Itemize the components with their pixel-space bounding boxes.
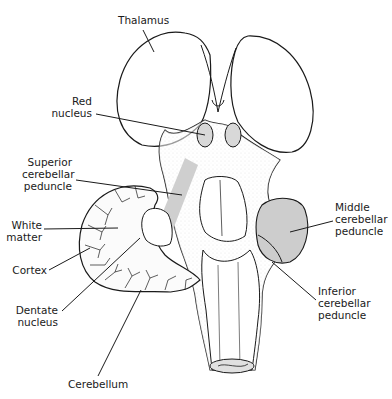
anatomy-illustration xyxy=(0,0,392,399)
label-dentate-nucleus: Dentate nucleus xyxy=(10,304,58,328)
dentate-nucleus xyxy=(142,208,172,246)
middle-cerebellar-peduncle xyxy=(256,198,308,263)
label-superior-cerebellar-peduncle: Superior cerebellar peduncle xyxy=(22,156,72,192)
label-white-matter: White matter xyxy=(2,219,42,243)
label-middle-cerebellar-peduncle: Middle cerebellar peduncle xyxy=(335,201,388,237)
medulla xyxy=(202,250,260,370)
label-red-nucleus: Red nucleus xyxy=(50,95,92,119)
label-cerebellum: Cerebellum xyxy=(68,378,128,390)
label-inferior-cerebellar-peduncle: Inferior cerebellar peduncle xyxy=(318,285,371,321)
label-thalamus: Thalamus xyxy=(118,14,169,26)
brainstem-cerebellum-diagram: Thalamus Red nucleus Superior cerebellar… xyxy=(0,0,392,399)
label-cortex: Cortex xyxy=(2,264,47,276)
right-thalamus xyxy=(231,36,313,152)
red-nucleus-right xyxy=(225,123,241,147)
